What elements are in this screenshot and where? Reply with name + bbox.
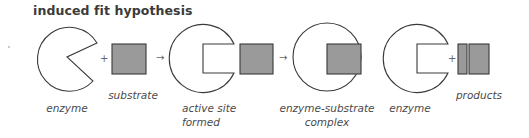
diagram-graphics <box>0 0 529 138</box>
label-line: complex <box>279 115 374 129</box>
label-active-site-formed: active site formed <box>182 101 236 129</box>
released-enzyme-shape <box>383 24 448 92</box>
label-products: products <box>456 88 502 102</box>
plus-symbol-1: + <box>100 54 108 64</box>
product-small-shape <box>458 44 467 74</box>
active-site-enzyme-shape <box>169 24 234 92</box>
substrate-approaching-shape <box>240 44 273 74</box>
substrate-shape <box>112 44 146 74</box>
arrow-icon-2: → <box>279 53 287 63</box>
arrow-icon-1: → <box>156 53 164 63</box>
stray-dot <box>8 46 10 48</box>
label-enzyme-substrate-complex: enzyme-substrate complex <box>279 101 374 129</box>
label-line: active site <box>182 101 236 115</box>
label-enzyme: enzyme <box>46 101 88 115</box>
enzyme-shape <box>37 27 97 91</box>
label-line: enzyme-substrate <box>279 101 374 115</box>
label-enzyme-released: enzyme <box>389 101 431 115</box>
label-line: formed <box>182 115 236 129</box>
complex-substrate-shape <box>327 44 361 74</box>
induced-fit-diagram: induced fit hypothesis + → → + enzyme su… <box>0 0 529 138</box>
label-substrate: substrate <box>108 88 158 102</box>
product-large-shape <box>469 44 489 74</box>
plus-symbol-2: + <box>448 54 456 64</box>
